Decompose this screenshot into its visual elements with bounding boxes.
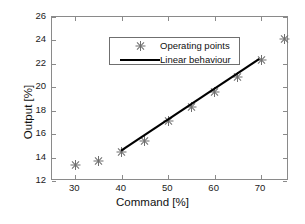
y-tick-mark: [283, 87, 287, 88]
y-tick-mark: [52, 17, 56, 18]
legend-label-operating-points: Operating points: [160, 39, 230, 52]
y-tick-mark: [52, 134, 56, 135]
y-tick-mark: [52, 158, 56, 159]
y-tick-mark: [52, 111, 56, 112]
x-axis-label: Command [%]: [0, 196, 305, 208]
x-tick-label: 50: [162, 183, 173, 193]
x-tick-mark: [215, 175, 216, 179]
x-tick-mark: [75, 17, 76, 21]
y-tick-label: 12: [35, 175, 46, 185]
legend-label-linear-behaviour: Linear behaviour: [160, 53, 231, 66]
x-tick-mark: [261, 17, 262, 21]
y-tick-mark: [283, 64, 287, 65]
y-tick-label: 20: [35, 81, 46, 91]
y-tick-mark: [52, 181, 56, 182]
x-tick-mark: [215, 17, 216, 21]
x-tick-label: 40: [115, 183, 126, 193]
y-tick-mark: [283, 111, 287, 112]
plot-area: Operating points Linear behaviour: [51, 16, 288, 180]
y-tick-mark: [52, 64, 56, 65]
y-axis-label: Output [%]: [22, 52, 34, 172]
legend-entry-linear-behaviour: Linear behaviour: [110, 53, 239, 66]
x-tick-label: 70: [255, 183, 266, 193]
y-tick-label: 22: [35, 58, 46, 68]
x-tick-mark: [122, 17, 123, 21]
figure-canvas: Operating points Linear behaviour 304050…: [0, 0, 305, 224]
legend-line-swatch-icon: [114, 53, 158, 66]
x-tick-mark: [168, 17, 169, 21]
legend: Operating points Linear behaviour: [109, 37, 240, 65]
legend-marker-asterisk-icon: [114, 39, 158, 52]
y-tick-mark: [283, 134, 287, 135]
x-tick-mark: [75, 175, 76, 179]
y-tick-label: 16: [35, 128, 46, 138]
y-tick-label: 26: [35, 11, 46, 21]
y-tick-label: 14: [35, 152, 46, 162]
x-tick-mark: [261, 175, 262, 179]
y-tick-mark: [52, 40, 56, 41]
y-tick-mark: [283, 158, 287, 159]
x-tick-mark: [168, 175, 169, 179]
legend-entry-operating-points: Operating points: [110, 39, 239, 52]
x-tick-label: 60: [208, 183, 219, 193]
x-tick-mark: [122, 175, 123, 179]
y-tick-mark: [52, 87, 56, 88]
x-tick-label: 30: [69, 183, 80, 193]
y-tick-mark: [283, 40, 287, 41]
y-tick-label: 24: [35, 34, 46, 44]
y-tick-mark: [283, 181, 287, 182]
y-tick-mark: [283, 17, 287, 18]
y-tick-label: 18: [35, 105, 46, 115]
